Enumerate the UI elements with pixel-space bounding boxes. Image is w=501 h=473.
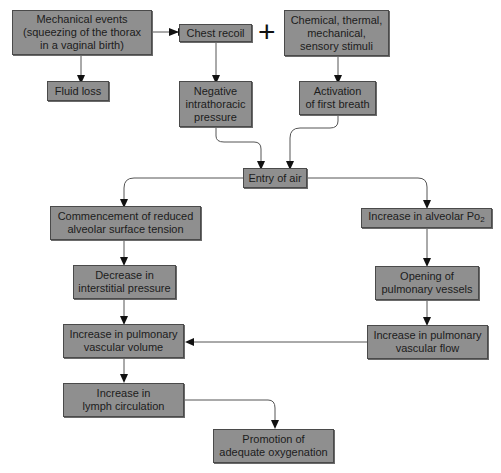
node-label: Chest recoil — [186, 27, 244, 40]
node-label: Increase in pulmonary vascular flow — [373, 329, 481, 355]
node-label: Negative intrathoracic pressure — [186, 85, 246, 124]
node-opening-vessels: Opening of pulmonary vessels — [375, 266, 479, 300]
node-label: Opening of pulmonary vessels — [381, 270, 472, 296]
node-stimuli: Chemical, thermal, mechanical, sensory s… — [284, 10, 389, 56]
node-label: Increase in alveolar Po2 — [368, 210, 484, 226]
node-label: Fluid loss — [55, 85, 101, 98]
node-label: Mechanical events (squeezing of the thor… — [23, 13, 141, 52]
node-vascular-volume: Increase in pulmonary vascular volume — [63, 324, 184, 358]
node-fluid-loss: Fluid loss — [47, 81, 109, 101]
node-oxygenation: Promotion of adequate oxygenation — [213, 429, 334, 463]
node-label: Activation of first breath — [305, 85, 369, 111]
node-label: Entry of air — [248, 172, 301, 185]
node-label: Decrease in interstitial pressure — [78, 269, 170, 295]
plus-symbol: + — [258, 17, 276, 47]
node-surface-tension: Commencement of reduced alveolar surface… — [50, 206, 201, 240]
node-first-breath: Activation of first breath — [299, 81, 376, 115]
node-vascular-flow: Increase in pulmonary vascular flow — [367, 325, 488, 359]
node-label: Increase in lymph circulation — [83, 387, 165, 413]
node-interstitial-pressure: Decrease in interstitial pressure — [73, 265, 176, 299]
node-negative-pressure: Negative intrathoracic pressure — [179, 81, 252, 127]
node-label: Increase in pulmonary vascular volume — [69, 328, 177, 354]
node-alveolar-po2: Increase in alveolar Po2 — [361, 208, 492, 228]
node-entry-of-air: Entry of air — [243, 168, 307, 188]
node-mechanical-events: Mechanical events (squeezing of the thor… — [12, 10, 152, 55]
node-lymph-circulation: Increase in lymph circulation — [63, 383, 184, 417]
node-chest-recoil: Chest recoil — [179, 24, 252, 42]
node-label: Promotion of adequate oxygenation — [219, 433, 327, 459]
node-label: Chemical, thermal, mechanical, sensory s… — [291, 14, 383, 53]
node-label: Commencement of reduced alveolar surface… — [58, 210, 194, 236]
